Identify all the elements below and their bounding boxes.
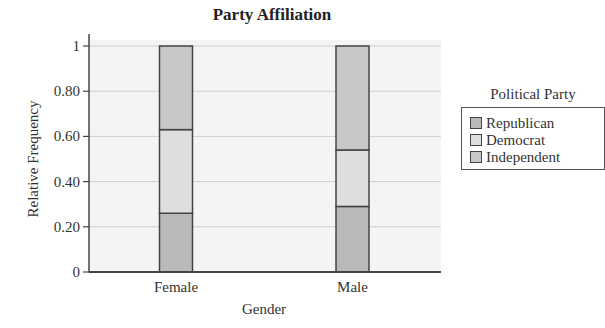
bar-segment-democrat: [336, 150, 369, 207]
y-tick-label: 0: [73, 264, 81, 280]
y-tick-label: 1: [73, 38, 81, 54]
plot-area: [89, 40, 441, 272]
legend-label: Republican: [486, 115, 554, 131]
y-tick-label: 0.60: [54, 128, 80, 144]
y-tick-label: 0.20: [54, 219, 80, 235]
legend-swatch-democrat: [470, 134, 482, 146]
y-tick-label: 0.40: [54, 174, 80, 190]
legend: Republican Democrat Independent: [461, 107, 605, 170]
legend-title: Political Party: [461, 86, 605, 103]
legend-swatch-independent: [470, 151, 482, 163]
legend-item-republican: Republican: [470, 114, 554, 131]
x-axis-label: Gender: [242, 301, 286, 317]
legend-item-democrat: Democrat: [470, 131, 545, 148]
bar-segment-democrat: [160, 130, 193, 214]
legend-item-independent: Independent: [470, 148, 560, 165]
bar-segment-republican: [336, 206, 369, 272]
y-tick-label: 0.80: [54, 83, 80, 99]
x-tick-label: Male: [337, 279, 368, 295]
y-axis-label: Relative Frequency: [25, 100, 41, 218]
legend-label: Independent: [486, 149, 560, 165]
x-tick-label: Female: [154, 279, 198, 295]
legend-label: Democrat: [486, 132, 545, 148]
bar-segment-independent: [160, 46, 193, 130]
bar-segment-independent: [336, 46, 369, 150]
bar-segment-republican: [160, 213, 193, 272]
legend-swatch-republican: [470, 117, 482, 129]
